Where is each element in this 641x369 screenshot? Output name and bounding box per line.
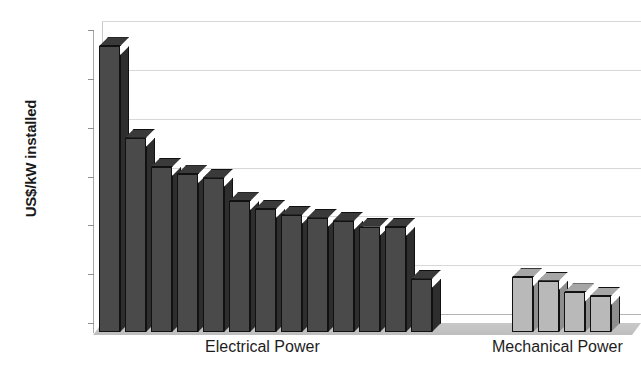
bar-front-face [99, 46, 120, 332]
y-axis-tick [88, 323, 94, 324]
bar-front-face [177, 174, 198, 332]
bar-front-face [125, 138, 146, 332]
y-axis-tick [88, 79, 94, 80]
category-label-mechanical: Mechanical Power [492, 338, 623, 356]
bar [203, 178, 224, 332]
bar [411, 279, 432, 332]
bar [255, 209, 276, 332]
y-axis-tick [88, 225, 94, 226]
bar [385, 227, 406, 332]
bar-front-face [512, 277, 533, 332]
gridline [102, 168, 641, 169]
bar-front-face [411, 279, 432, 332]
y-axis-title: US$/kW installed [22, 69, 39, 249]
bar-front-face [229, 201, 250, 332]
bar-front-face [151, 167, 172, 332]
bar-front-face [564, 292, 585, 332]
bar [590, 296, 611, 332]
bar-chart: US$/kW installed 01000200030004000500060… [0, 0, 641, 369]
gridline [102, 70, 641, 71]
bar-front-face [333, 221, 354, 332]
bar [229, 201, 250, 332]
y-axis-line [93, 30, 94, 333]
y-axis-tick [88, 177, 94, 178]
gridline [102, 119, 641, 120]
category-label-electrical: Electrical Power [205, 338, 320, 356]
y-axis-tick [88, 30, 94, 31]
bar [538, 281, 559, 332]
bar [281, 215, 302, 332]
gridline [102, 21, 641, 22]
bar [151, 167, 172, 332]
bar-front-face [359, 227, 380, 332]
bar-front-face [281, 215, 302, 332]
bar-front-face [203, 178, 224, 332]
bar [307, 218, 328, 332]
bar [125, 138, 146, 332]
y-axis-tick [88, 128, 94, 129]
bar-front-face [307, 218, 328, 332]
bar [333, 221, 354, 332]
bar-front-face [255, 209, 276, 332]
y-axis-tick [88, 274, 94, 275]
bar-side-face [432, 279, 441, 332]
bar [512, 277, 533, 332]
plot-area: 0100020003000400050006000 [93, 30, 641, 332]
bar [99, 46, 120, 332]
bar-front-face [538, 281, 559, 332]
bar [564, 292, 585, 332]
bar [359, 227, 380, 332]
bar [177, 174, 198, 332]
bar-front-face [590, 296, 611, 332]
bar-front-face [385, 227, 406, 332]
